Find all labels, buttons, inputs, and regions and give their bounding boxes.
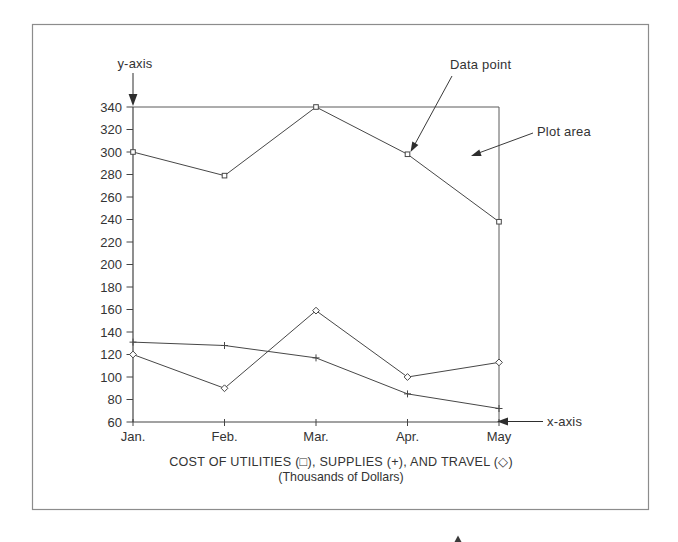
- y-axis-annotation-label: y-axis: [117, 56, 152, 71]
- y-tick-label: 180: [100, 280, 122, 295]
- y-tick-label: 60: [108, 415, 122, 430]
- y-tick-label: 260: [100, 190, 122, 205]
- y-tick-label: 280: [100, 167, 122, 182]
- x-axis-ticks: Jan.Feb.Mar.Apr.May: [121, 419, 512, 444]
- supplies-marker-icon: [221, 342, 228, 349]
- data-point-annotation-arrow-line: [415, 76, 452, 144]
- travel-marker-icon: [496, 359, 503, 366]
- supplies-marker-icon: [496, 405, 503, 412]
- utilities-marker-icon: [314, 105, 319, 110]
- utilities-marker-icon: [222, 173, 227, 178]
- x-tick-label: Apr.: [396, 429, 419, 444]
- chart-caption-subtitle: (Thousands of Dollars): [278, 470, 403, 484]
- data-point-annotation-arrowhead-icon: [411, 142, 419, 153]
- x-tick-label: Jan.: [121, 429, 146, 444]
- travel-marker-icon: [404, 374, 411, 381]
- y-axis-ticks: 3403203002802602402202001801601401201008…: [100, 100, 133, 430]
- y-tick-label: 80: [108, 392, 122, 407]
- utilities-marker-icon: [497, 219, 502, 224]
- y-tick-label: 100: [100, 370, 122, 385]
- supplies-series-line: [133, 342, 499, 408]
- y-tick-label: 300: [100, 145, 122, 160]
- cost-line-chart-figure: 3403203002802602402202001801601401201008…: [0, 0, 678, 542]
- y-tick-label: 160: [100, 302, 122, 317]
- travel-marker-icon: [130, 351, 137, 358]
- x-axis-annotation-label: x-axis: [547, 414, 582, 429]
- utilities-series-line: [133, 107, 499, 222]
- x-tick-label: Feb.: [211, 429, 237, 444]
- data-point-annotation-label: Data point: [450, 57, 511, 72]
- chart-caption-title: COST OF UTILITIES (□), SUPPLIES (+), AND…: [169, 455, 513, 469]
- supplies-marker-icon: [404, 390, 411, 397]
- y-tick-label: 340: [100, 100, 122, 115]
- clipped-pointer-tip-icon: [455, 536, 462, 542]
- y-tick-label: 120: [100, 347, 122, 362]
- y-tick-label: 140: [100, 325, 122, 340]
- supplies-marker-icon: [130, 339, 137, 346]
- y-tick-label: 320: [100, 122, 122, 137]
- y-axis-annotation-arrowhead-icon: [129, 94, 138, 106]
- plot-area-annotation-arrow-line: [480, 133, 533, 153]
- x-tick-label: Mar.: [303, 429, 328, 444]
- scanned-figure-page: 3403203002802602402202001801601401201008…: [0, 0, 678, 542]
- utilities-marker-icon: [405, 152, 410, 157]
- travel-series-line: [133, 311, 499, 389]
- y-tick-label: 220: [100, 235, 122, 250]
- x-tick-label: May: [487, 429, 512, 444]
- utilities-marker-icon: [131, 150, 136, 155]
- plot-area-annotation-arrowhead-icon: [471, 150, 482, 157]
- plot-area-annotation-label: Plot area: [537, 124, 591, 139]
- supplies-marker-icon: [313, 354, 320, 361]
- y-tick-label: 200: [100, 257, 122, 272]
- y-tick-label: 240: [100, 212, 122, 227]
- series-group: [130, 105, 503, 412]
